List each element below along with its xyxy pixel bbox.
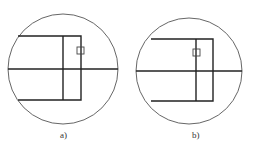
rect-b	[151, 39, 213, 101]
panel-a	[8, 14, 118, 124]
panel-a-label: a)	[60, 130, 67, 140]
diagram-canvas	[0, 0, 257, 152]
panel-b	[136, 18, 242, 124]
panel-b-label: b)	[192, 130, 200, 140]
rect-a	[18, 36, 81, 100]
